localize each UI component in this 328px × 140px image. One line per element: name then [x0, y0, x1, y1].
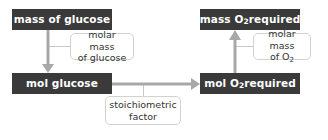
label-molar-mass-of-glucose-line1: molar mass [75, 29, 129, 52]
label-molar-mass-of-o2: molar mass of O2 [253, 33, 311, 60]
label-molar-mass-of-o2-line1: molar mass [258, 28, 306, 51]
label-molar-mass-of-glucose-line2-text: of glucose [78, 52, 127, 63]
label-molar-mass-of-glucose-line2: of glucose [78, 52, 127, 64]
label-stoichiometric-factor-line2: factor [129, 111, 157, 123]
label-molar-mass-of-glucose: molar mass of glucose [70, 33, 134, 60]
label-stoichiometric-factor-line1: stoichiometric [109, 99, 176, 111]
label-molar-mass-of-o2-line2: of O2 [270, 51, 294, 65]
label-stoichiometric-factor: stoichiometric factor [105, 96, 181, 125]
label-molar-mass-of-o2-line2-text: of O [270, 51, 290, 62]
label-stoichiometric-factor-line2-text: factor [129, 111, 157, 122]
label-molar-mass-of-o2-subscript: 2 [290, 56, 294, 64]
stoichiometry-flowchart-diagram: mass of glucose mol glucose mass O2 requ… [0, 0, 328, 140]
